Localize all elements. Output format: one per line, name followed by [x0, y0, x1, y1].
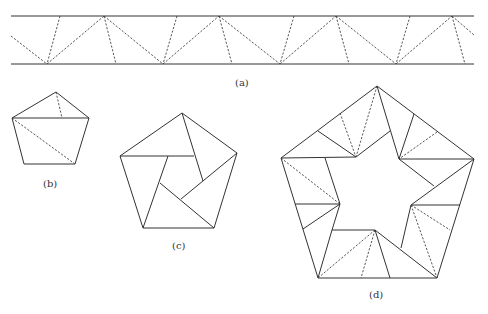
label-d: (d) [369, 289, 383, 300]
pentagon-d-outline [281, 86, 474, 278]
pentagon-d: (d) [281, 86, 474, 300]
pentagon-b: (b) [12, 92, 89, 189]
pentagon-c: (c) [120, 113, 237, 251]
strip-fold-lines [11, 16, 474, 64]
folding-diagram: (a) (b) (c) [0, 0, 488, 314]
label-c: (c) [172, 240, 186, 251]
label-b: (b) [43, 178, 57, 189]
pentagon-b-outline [12, 92, 89, 164]
strip-a: (a) [11, 16, 474, 88]
label-a: (a) [235, 77, 249, 88]
pentagon-c-outline [120, 113, 237, 228]
